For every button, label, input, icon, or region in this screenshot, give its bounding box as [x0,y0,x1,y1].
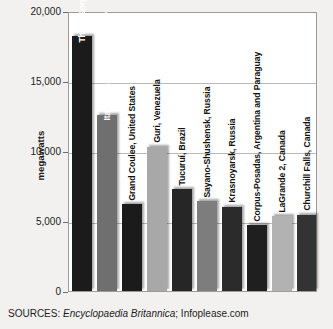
bar[interactable] [247,225,267,291]
bar-label: Corpus-Posadas, Argentina and Paraguay [252,52,261,222]
bar[interactable] [147,147,167,291]
bar-label: Guri, Venezuela [153,80,162,143]
bar[interactable] [97,115,117,291]
y-axis-tick-label: 5,000 [3,216,61,227]
bar-label: Krasnoyarsk, Russia [228,119,237,203]
y-axis-tick-label: 15,000 [3,76,61,87]
bar[interactable] [172,189,192,291]
bar-label: Sayano-Shushensk, Russia [203,86,212,197]
bar-label: LaGrande 2, Canada [277,130,286,212]
y-axis-tick-label: 10,000 [3,146,61,157]
bar-label: Grand Coulee, United States [128,86,137,201]
bar-label: Churchill Falls, Canada [302,117,311,211]
y-axis-tick-label: 20,000 [3,6,61,17]
y-axis-tick-mark [63,292,68,293]
bar-label: Tucuruí, Brazil [178,127,187,185]
bar[interactable] [197,201,217,291]
plot-area: Three Gorges, ChinaItaipu, Brazil and Pa… [68,12,317,292]
bar[interactable] [222,207,242,291]
bar-label: Three Gorges, China [78,0,87,42]
sources-prefix: SOURCES: [8,308,60,319]
y-axis-tick-label: 0 [3,286,61,297]
chart-page: megawatts 05,00010,00015,00020,000 Three… [0,0,333,329]
bar[interactable] [297,215,317,291]
bar[interactable] [122,204,142,291]
bar[interactable] [272,216,292,291]
sources-rest: ; Infoplease.com [175,308,248,319]
bar[interactable] [72,36,92,291]
bar-series: Three Gorges, ChinaItaipu, Brazil and Pa… [69,13,316,291]
bar-label: Itaipu, Brazil and Paraguay [103,12,112,121]
sources-note: SOURCES: Encyclopaedia Britannica; Infop… [8,308,249,319]
sources-italic-title: Encyclopaedia Britannica [63,308,175,319]
